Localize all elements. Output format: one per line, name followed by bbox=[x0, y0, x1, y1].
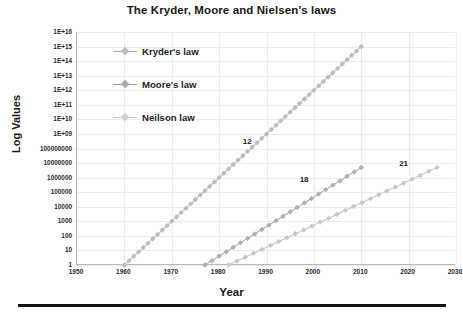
series-marker bbox=[409, 176, 414, 181]
x-tick-label: 2000 bbox=[293, 268, 333, 275]
legend-marker-icon bbox=[113, 113, 137, 122]
series-marker bbox=[268, 243, 273, 248]
x-axis-label: Year bbox=[0, 286, 463, 298]
y-tick-label: 1 bbox=[2, 261, 72, 268]
x-tick-label: 1950 bbox=[56, 268, 96, 275]
series-marker bbox=[330, 182, 335, 187]
series-marker bbox=[301, 227, 306, 232]
bottom-divider bbox=[18, 304, 446, 307]
y-tick-label: 1E+14 bbox=[2, 57, 72, 64]
series-marker bbox=[343, 208, 348, 213]
chart-legend: Kryder's law Moore's law Neilson law bbox=[113, 46, 199, 145]
series-marker bbox=[309, 223, 314, 228]
legend-marker-icon bbox=[113, 80, 137, 89]
y-tick-label: 10000000 bbox=[2, 159, 72, 166]
series-marker bbox=[224, 249, 229, 254]
legend-marker-icon bbox=[113, 47, 137, 56]
series-marker bbox=[323, 187, 328, 192]
series-marker bbox=[252, 231, 257, 236]
series-marker bbox=[216, 253, 221, 258]
series-marker bbox=[273, 218, 278, 223]
series-marker bbox=[259, 227, 264, 232]
y-tick-label: 1E+11 bbox=[2, 101, 72, 108]
series-marker bbox=[376, 192, 381, 197]
series-marker bbox=[231, 245, 236, 250]
series-marker bbox=[359, 200, 364, 205]
y-tick-label: 1000000 bbox=[2, 174, 72, 181]
series-marker bbox=[295, 205, 300, 210]
series-marker bbox=[288, 209, 293, 214]
series-marker bbox=[245, 236, 250, 241]
x-tick-label: 2010 bbox=[340, 268, 380, 275]
legend-label: Neilson law bbox=[142, 112, 195, 123]
data-annotation: 21 bbox=[399, 159, 408, 168]
series-marker bbox=[316, 191, 321, 196]
series-marker bbox=[251, 251, 256, 256]
legend-label: Kryder's law bbox=[142, 46, 199, 57]
y-tick-label: 1E+09 bbox=[2, 130, 72, 137]
plot-area: 121821 Kryder's law Moore's law Neilson … bbox=[76, 32, 455, 265]
series-marker bbox=[384, 188, 389, 193]
y-tick-label: 1000 bbox=[2, 217, 72, 224]
series-marker bbox=[344, 174, 349, 179]
series-marker bbox=[334, 212, 339, 217]
series-marker bbox=[401, 180, 406, 185]
series-marker bbox=[434, 165, 439, 170]
series-marker bbox=[318, 219, 323, 224]
y-tick-label: 1E+12 bbox=[2, 86, 72, 93]
series-marker bbox=[280, 214, 285, 219]
x-tick-label: 1990 bbox=[246, 268, 286, 275]
series-marker bbox=[284, 235, 289, 240]
y-tick-label: 10 bbox=[2, 246, 72, 253]
gridline-horizontal bbox=[77, 265, 455, 266]
series-marker bbox=[351, 169, 356, 174]
series-marker bbox=[209, 258, 214, 263]
series-marker bbox=[426, 169, 431, 174]
y-tick-label: 100000 bbox=[2, 188, 72, 195]
legend-item-moores-law[interactable]: Moore's law bbox=[113, 79, 199, 90]
series-marker bbox=[359, 165, 364, 170]
series-marker bbox=[276, 239, 281, 244]
series-marker bbox=[234, 258, 239, 263]
x-tick-label: 2020 bbox=[388, 268, 428, 275]
series-marker bbox=[243, 255, 248, 260]
data-annotation: 18 bbox=[300, 175, 309, 184]
y-tick-label: 100000000 bbox=[2, 145, 72, 152]
series-marker bbox=[309, 196, 314, 201]
y-tick-label: 10000 bbox=[2, 203, 72, 210]
series-marker bbox=[337, 178, 342, 183]
x-tick-label: 1960 bbox=[103, 268, 143, 275]
series-marker bbox=[302, 200, 307, 205]
y-tick-label: 1E+10 bbox=[2, 115, 72, 122]
chart-figure: The Kryder, Moore and Nielsen’s laws Log… bbox=[0, 0, 463, 314]
data-annotation: 12 bbox=[243, 137, 252, 146]
series-marker bbox=[326, 215, 331, 220]
series-line bbox=[229, 167, 437, 265]
series-marker bbox=[368, 196, 373, 201]
series-marker bbox=[293, 231, 298, 236]
series-marker bbox=[418, 173, 423, 178]
y-tick-label: 1E+15 bbox=[2, 43, 72, 50]
x-tick-label: 2030 bbox=[435, 268, 463, 275]
series-marker bbox=[351, 204, 356, 209]
series-marker bbox=[393, 184, 398, 189]
x-tick-label: 1970 bbox=[151, 268, 191, 275]
legend-item-kryders-law[interactable]: Kryder's law bbox=[113, 46, 199, 57]
series-marker bbox=[259, 247, 264, 252]
y-tick-label: 100 bbox=[2, 232, 72, 239]
y-tick-label: 1E+16 bbox=[2, 28, 72, 35]
legend-item-neilson-law[interactable]: Neilson law bbox=[113, 112, 199, 123]
x-tick-label: 1980 bbox=[198, 268, 238, 275]
series-marker bbox=[238, 240, 243, 245]
gridline-vertical bbox=[456, 32, 457, 264]
y-tick-label: 1E+13 bbox=[2, 72, 72, 79]
legend-label: Moore's law bbox=[142, 79, 197, 90]
series-marker bbox=[266, 222, 271, 227]
